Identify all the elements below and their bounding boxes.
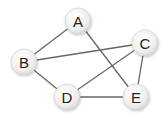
graph-diagram: ABCDE bbox=[0, 0, 168, 118]
node-d: D bbox=[54, 84, 80, 110]
nodes: ABCDE bbox=[11, 8, 158, 110]
edge-a-e bbox=[78, 21, 136, 97]
node-label: A bbox=[73, 13, 83, 30]
graph-svg: ABCDE bbox=[0, 0, 168, 118]
edge-b-c bbox=[24, 43, 145, 62]
node-b: B bbox=[11, 49, 37, 75]
node-a: A bbox=[65, 8, 91, 34]
node-label: D bbox=[62, 89, 73, 106]
node-c: C bbox=[132, 30, 158, 56]
node-label: E bbox=[131, 89, 141, 106]
node-e: E bbox=[123, 84, 149, 110]
node-label: B bbox=[19, 54, 29, 71]
node-label: C bbox=[140, 35, 151, 52]
